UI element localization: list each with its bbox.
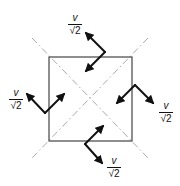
label-left: v √2 xyxy=(9,83,23,111)
arrow-icon xyxy=(85,144,102,163)
diagram-canvas xyxy=(0,0,180,186)
denominator: √2 xyxy=(69,25,80,36)
fraction-v-over-root2: v √2 xyxy=(68,13,82,36)
arrow-icon xyxy=(86,52,105,71)
numerator: v xyxy=(110,156,119,167)
denominator: √2 xyxy=(10,100,21,111)
numerator: v xyxy=(71,13,80,24)
label-top: v √2 xyxy=(68,8,82,36)
denominator: √2 xyxy=(160,113,171,124)
fraction-v-over-root2: v √2 xyxy=(9,88,23,111)
arrow-icon xyxy=(27,94,45,113)
arrow-icon xyxy=(135,85,153,103)
numerator: v xyxy=(12,88,21,99)
fraction-v-over-root2: v √2 xyxy=(159,101,173,124)
label-bottom: v √2 xyxy=(107,151,121,179)
denominator: √2 xyxy=(108,168,119,179)
arrow-group-bottom xyxy=(85,126,103,163)
arrow-group-left xyxy=(27,94,64,113)
square xyxy=(49,57,132,141)
numerator: v xyxy=(162,101,171,112)
arrow-group-right xyxy=(117,85,153,103)
label-right: v √2 xyxy=(159,96,173,124)
fraction-v-over-root2: v √2 xyxy=(107,156,121,179)
arrow-icon xyxy=(86,33,105,52)
arrow-group-top xyxy=(86,33,105,71)
arrow-icon xyxy=(45,94,64,113)
